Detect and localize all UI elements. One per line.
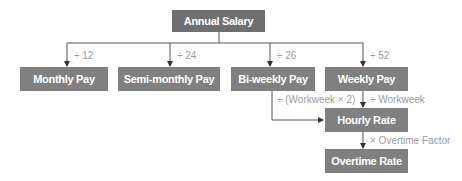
edge-label-weekly-to-hourly: ÷ Workweek [370, 94, 425, 105]
node-annual-salary: Annual Salary [172, 10, 265, 32]
node-hourly-rate: Hourly Rate [325, 108, 408, 132]
node-overtime-rate: Overtime Rate [325, 149, 408, 173]
edge-label-hourly-to-overtime: × Overtime Factor [370, 135, 450, 146]
node-weekly-pay: Weekly Pay [325, 67, 408, 91]
node-label: Hourly Rate [337, 114, 395, 126]
node-monthly-pay: Monthly Pay [20, 67, 108, 91]
node-label: Monthly Pay [33, 73, 95, 85]
node-label: Weekly Pay [338, 73, 395, 85]
node-biweekly-pay: Bi-weekly Pay [231, 67, 315, 91]
node-label: Semi-monthly Pay [124, 73, 215, 85]
edge-label-biweekly-to-hourly: ÷ (Workweek × 2) [277, 94, 355, 105]
edge-label-semimonthly: ÷ 24 [177, 50, 196, 61]
node-label: Overtime Rate [331, 155, 402, 167]
node-semimonthly-pay: Semi-monthly Pay [118, 67, 220, 91]
edge-label-biweekly: ÷ 26 [277, 50, 296, 61]
edge-label-monthly: ÷ 12 [74, 50, 93, 61]
edge-label-weekly: ÷ 52 [370, 50, 389, 61]
node-label: Annual Salary [184, 15, 253, 27]
node-label: Bi-weekly Pay [238, 73, 307, 85]
